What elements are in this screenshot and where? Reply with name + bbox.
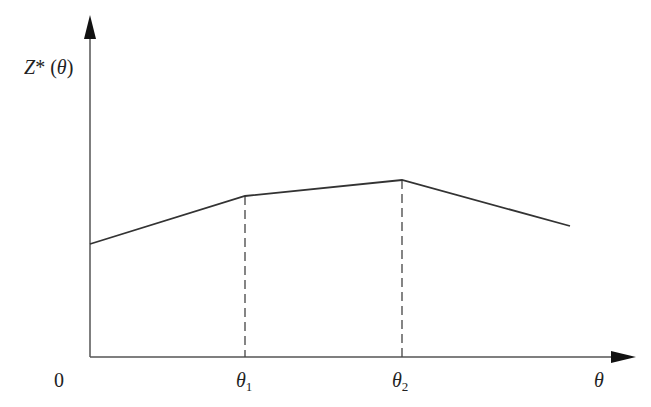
tick-label-theta1: θ1 xyxy=(236,369,252,395)
x-axis-label: θ xyxy=(594,369,604,392)
z-star-curve xyxy=(90,180,570,244)
tick-label-theta2: θ2 xyxy=(392,369,408,395)
y-axis-arrow-icon xyxy=(84,15,96,39)
diagram-canvas xyxy=(0,0,651,407)
y-axis-label: Z* (θ) xyxy=(24,56,73,79)
x-axis-arrow-icon xyxy=(611,351,636,363)
origin-label: 0 xyxy=(54,369,64,392)
